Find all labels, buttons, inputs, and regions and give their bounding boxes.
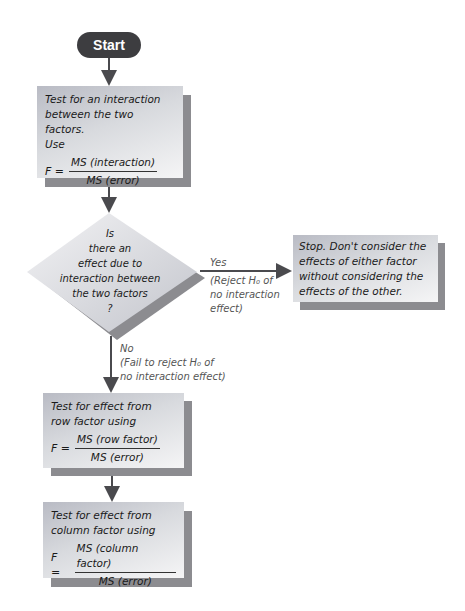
- decision-line: there an: [40, 241, 180, 256]
- start-terminal: Start: [77, 32, 141, 58]
- interaction-line3: Use: [45, 137, 175, 152]
- yes-note: (Reject H₀ of no interaction effect): [210, 274, 280, 316]
- no-label: No: [120, 342, 134, 356]
- interaction-line1: Test for an: [45, 93, 104, 105]
- decision-line: ?: [40, 301, 180, 316]
- yes-label: Yes: [210, 256, 226, 270]
- row-line2: row factor using: [51, 414, 176, 429]
- column-line1: Test for effect from: [51, 508, 176, 523]
- f-label: F =: [51, 550, 70, 580]
- start-label: Start: [93, 37, 125, 53]
- column-formula: F = MS (column factor) MS (error): [51, 541, 176, 589]
- stop-line: without considering the: [299, 269, 432, 284]
- interaction-line2: between the two factors.: [45, 107, 175, 137]
- yes-note-line: (Reject H₀ of: [210, 274, 280, 288]
- formula-numerator: MS (column factor): [75, 541, 176, 573]
- interaction-test-box: Test for an interaction between the two …: [37, 86, 183, 178]
- formula-denominator: MS (error): [87, 172, 140, 188]
- f-label: F =: [51, 441, 70, 456]
- yes-note-line: no interaction: [210, 288, 280, 302]
- decision-line: the two factors: [40, 286, 180, 301]
- row-factor-box: Test for effect from row factor using F …: [43, 393, 184, 468]
- decision-line: Is: [40, 226, 180, 241]
- stop-line: Stop. Don't consider the: [299, 239, 432, 254]
- formula-denominator: MS (error): [91, 449, 144, 465]
- f-label: F =: [45, 164, 64, 179]
- row-line1: Test for effect from: [51, 399, 176, 414]
- decision-text: Is there an effect due to interaction be…: [40, 226, 180, 316]
- stop-box: Stop. Don't consider the effects of eith…: [293, 235, 438, 302]
- formula-numerator: MS (interaction): [69, 155, 157, 172]
- interaction-emph: interaction: [104, 93, 161, 105]
- stop-line: effects of either factor: [299, 254, 432, 269]
- no-note-line: no interaction effect): [120, 370, 226, 384]
- yes-note-line: effect): [210, 302, 280, 316]
- decision-line: effect due to: [40, 256, 180, 271]
- formula-numerator: MS (row factor): [75, 432, 160, 449]
- row-formula: F = MS (row factor) MS (error): [51, 432, 176, 465]
- no-note-line: (Fail to reject H₀ of: [120, 356, 226, 370]
- formula-denominator: MS (error): [99, 573, 152, 589]
- stop-line: effects of the other.: [299, 284, 432, 299]
- interaction-formula: F = MS (interaction) MS (error): [45, 155, 175, 188]
- decision-line: interaction between: [40, 271, 180, 286]
- no-note: (Fail to reject H₀ of no interaction eff…: [120, 356, 226, 384]
- column-factor-box: Test for effect from column factor using…: [43, 502, 184, 578]
- column-line2: column factor using: [51, 523, 176, 538]
